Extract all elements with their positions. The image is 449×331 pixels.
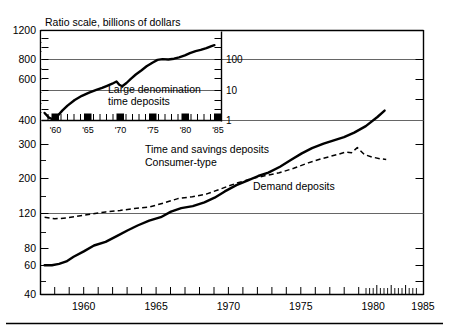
y-tick-label: 800 <box>18 53 36 65</box>
inset-chart: 100 10 1 Large denomination time deposit… <box>42 32 244 136</box>
inset-marker-1965 <box>84 114 92 121</box>
inset-background <box>42 32 222 122</box>
inset-y-tick-label: 1 <box>226 115 232 126</box>
inset-x-tick-label: '85 <box>212 125 224 135</box>
y-tick-label: 120 <box>18 207 36 219</box>
inset-marker-1960 <box>52 114 60 121</box>
annotation-consumer-type: Consumer-type <box>145 156 217 168</box>
inset-x-tick-label: '60 <box>50 125 62 135</box>
x-tick-label: 1965 <box>144 300 168 312</box>
inset-x-tick-label: '80 <box>180 125 192 135</box>
y-tick-label: 400 <box>18 114 36 126</box>
inset-marker-1970 <box>117 114 125 121</box>
x-tick-label: 1985 <box>411 300 435 312</box>
x-tick-label: 1975 <box>289 300 313 312</box>
y-tick-label: 300 <box>18 138 36 150</box>
inset-marker-1975 <box>149 114 157 121</box>
chart-title: Ratio scale, billions of dollars <box>45 16 180 28</box>
chart-figure: 1200 800 600 400 300 200 120 80 60 40 <box>0 0 449 331</box>
y-tick-label: 200 <box>18 172 36 184</box>
y-tick-label: 80 <box>24 242 36 254</box>
y-tick-label: 600 <box>18 73 36 85</box>
annotation-time-savings-deposits: Time and savings deposits <box>145 143 269 155</box>
annotation-demand-deposits: Demand deposits <box>253 180 335 192</box>
inset-x-tick-label: '65 <box>82 125 94 135</box>
y-tick-label: 40 <box>24 288 36 300</box>
inset-x-tick-label: '70 <box>115 125 127 135</box>
y-tick-label: 1200 <box>13 24 37 36</box>
inset-marker-1980 <box>182 114 190 121</box>
inset-y-tick-label: 10 <box>226 85 238 96</box>
x-tick-label: 1980 <box>362 300 386 312</box>
y-tick-label: 60 <box>24 259 36 271</box>
inset-y-tick-label: 100 <box>226 54 243 65</box>
chart-svg: 1200 800 600 400 300 200 120 80 60 40 <box>0 0 449 331</box>
inset-annotation-line1: Large denomination <box>108 83 201 95</box>
inset-x-tick-label: '75 <box>147 125 159 135</box>
inset-marker-1985 <box>214 114 222 121</box>
x-tick-label: 1970 <box>217 300 241 312</box>
x-tick-label: 1960 <box>72 300 96 312</box>
inset-annotation-line2: time deposits <box>108 95 170 107</box>
